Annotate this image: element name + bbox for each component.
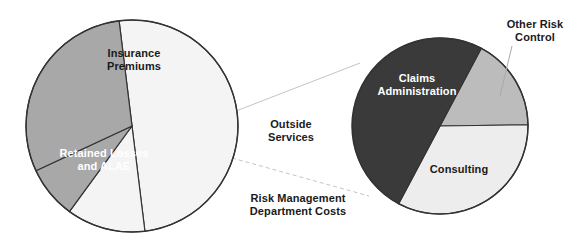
slice-label-claims-administration: Claims Administration (362, 72, 472, 98)
callout-label-outside-services: Outside Services (243, 118, 339, 144)
slice-label-retained-losses-and-alae: Retained Losses and ALAE (34, 147, 174, 173)
slice-label-insurance-premiums: Insurance Premiums (78, 47, 190, 73)
pie-outside-services-breakdown (352, 38, 528, 214)
pie-chart-figure: Insurance Premiums Retained Losses and A… (0, 0, 587, 246)
slice-label-consulting: Consulting (412, 163, 506, 176)
callout-label-risk-management-department-costs: Risk Management Department Costs (233, 192, 363, 218)
callout-label-other-risk-control: Other Risk Control (489, 18, 581, 44)
